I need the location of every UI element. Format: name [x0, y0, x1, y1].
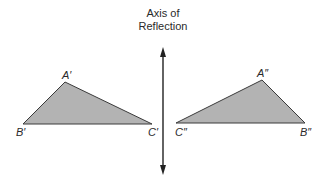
- reflection-diagram: Axis of Reflection A′ B′ C′ A″ B″ C″: [0, 0, 328, 196]
- axis-of-reflection: [160, 47, 166, 175]
- triangle-prime: [23, 82, 152, 124]
- vertex-label-b-double-prime: B″: [300, 126, 312, 138]
- arrow-up-icon: [160, 47, 166, 57]
- vertex-label-b-prime: B′: [16, 126, 26, 138]
- vertex-label-c-double-prime: C″: [175, 126, 188, 138]
- triangle-double-prime: [176, 80, 305, 123]
- vertex-label-a-prime: A′: [61, 69, 72, 81]
- arrow-down-icon: [160, 165, 166, 175]
- vertex-label-a-double-prime: A″: [256, 67, 269, 79]
- axis-title-line2: Reflection: [139, 20, 188, 32]
- axis-title-line1: Axis of: [146, 7, 180, 19]
- vertex-label-c-prime: C′: [148, 126, 159, 138]
